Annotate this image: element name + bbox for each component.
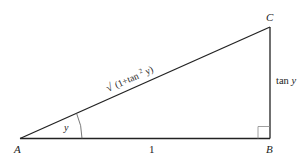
side-label-ab: 1 bbox=[149, 143, 155, 155]
side-label-bc-prefix: tan bbox=[276, 75, 290, 86]
triangle-diagram: A B C y 1 tan y √ (1+tan 2 y) bbox=[0, 0, 308, 159]
angle-arc-a bbox=[77, 113, 82, 138]
vertex-label-b: B bbox=[266, 143, 273, 155]
side-label-bc: tan y bbox=[276, 75, 296, 86]
vertex-label-a: A bbox=[13, 143, 21, 155]
right-angle-marker bbox=[258, 127, 270, 139]
side-label-ac-close: y) bbox=[143, 64, 155, 77]
side-label-ac-sup: 2 bbox=[137, 67, 143, 75]
side-label-bc-var: y bbox=[290, 75, 296, 86]
vertex-label-c: C bbox=[266, 11, 274, 23]
angle-label-y: y bbox=[63, 122, 69, 133]
side-ac-hypotenuse bbox=[20, 27, 270, 139]
side-label-ac-open: (1+tan bbox=[113, 71, 140, 91]
